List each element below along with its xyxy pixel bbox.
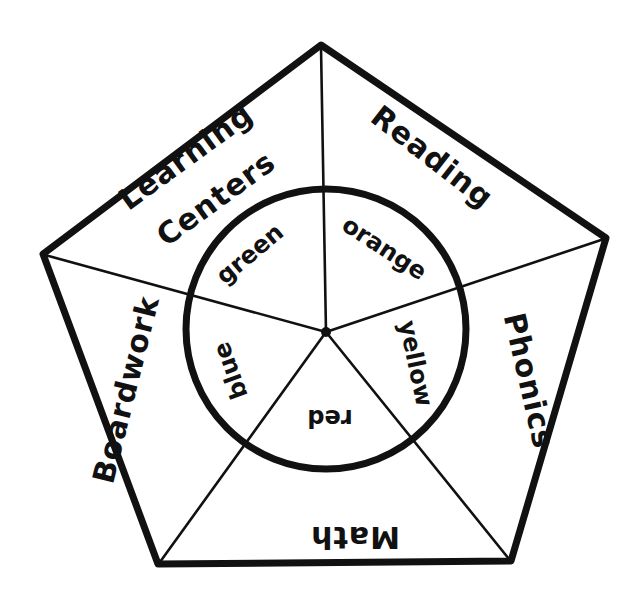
label-blue: blue: [207, 338, 253, 403]
label-red: red: [307, 404, 352, 432]
center-hub: [321, 327, 331, 337]
pentagon-wheel-diagram: Learning Centers Reading Phonics Math Bo…: [0, 0, 641, 609]
label-math: Math: [310, 520, 400, 555]
diagram-svg: Learning Centers Reading Phonics Math Bo…: [0, 0, 641, 609]
label-phonics: Phonics: [497, 309, 562, 452]
label-boardwork: Boardwork: [86, 292, 166, 487]
label-yellow: yellow: [393, 318, 438, 409]
label-green: green: [211, 218, 289, 290]
